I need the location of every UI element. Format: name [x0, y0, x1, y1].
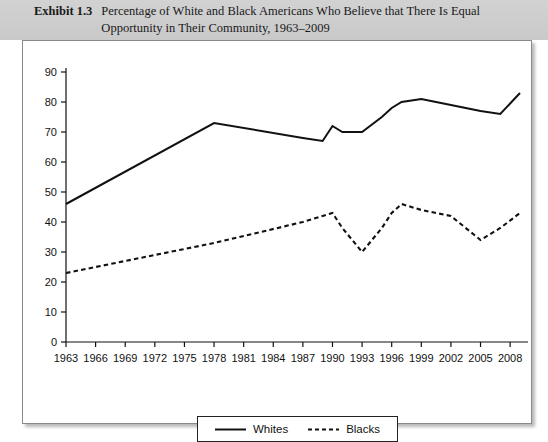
y-axis-tick-label: 90: [45, 66, 57, 78]
y-axis-tick-label: 60: [45, 156, 57, 168]
x-axis-tick-label: 1978: [202, 352, 226, 364]
chart-legend: Whites Blacks: [197, 416, 398, 442]
y-axis-tick-label: 20: [45, 276, 57, 288]
chart-panel: 0102030405060708090196319661969197219751…: [22, 40, 532, 424]
legend-label-whites: Whites: [253, 423, 288, 435]
x-axis-tick-label: 2005: [468, 352, 492, 364]
y-axis-tick-label: 70: [45, 126, 57, 138]
legend-item-blacks: Blacks: [308, 423, 380, 435]
legend-label-blacks: Blacks: [346, 423, 380, 435]
y-axis-tick-label: 10: [45, 306, 57, 318]
exhibit-header-text: Exhibit 1.3 Percentage of White and Blac…: [34, 3, 530, 37]
y-axis-tick-label: 50: [45, 186, 57, 198]
legend-item-whites: Whites: [215, 423, 288, 435]
x-axis-tick-label: 1963: [54, 352, 78, 364]
x-axis-tick-label: 1987: [291, 352, 315, 364]
series-line-whites: [66, 93, 520, 204]
line-chart: 0102030405060708090196319661969197219751…: [23, 41, 533, 425]
x-axis-tick-label: 1981: [231, 352, 255, 364]
x-axis-tick-label: 2002: [439, 352, 463, 364]
x-axis-tick-label: 2008: [498, 352, 522, 364]
x-axis-tick-label: 1966: [83, 352, 107, 364]
x-axis-tick-label: 1969: [113, 352, 137, 364]
exhibit-number-label: Exhibit 1.3: [34, 3, 92, 20]
exhibit-header-band: Exhibit 1.3 Percentage of White and Blac…: [0, 0, 548, 40]
x-axis-tick-label: 1972: [143, 352, 167, 364]
y-axis-tick-label: 0: [51, 336, 57, 348]
series-line-blacks: [66, 204, 520, 273]
y-axis-tick-label: 30: [45, 246, 57, 258]
y-axis-tick-label: 40: [45, 216, 57, 228]
x-axis-tick-label: 1996: [379, 352, 403, 364]
x-axis-tick-label: 1990: [320, 352, 344, 364]
y-axis-tick-label: 80: [45, 96, 57, 108]
x-axis-tick-label: 1975: [172, 352, 196, 364]
x-axis-tick-label: 1984: [261, 352, 285, 364]
x-axis-tick-label: 1999: [409, 352, 433, 364]
exhibit-title: Percentage of White and Black Americans …: [101, 3, 521, 37]
legend-swatch-solid-icon: [215, 428, 246, 431]
x-axis-tick-label: 1993: [350, 352, 374, 364]
legend-swatch-dashed-icon: [308, 428, 339, 431]
